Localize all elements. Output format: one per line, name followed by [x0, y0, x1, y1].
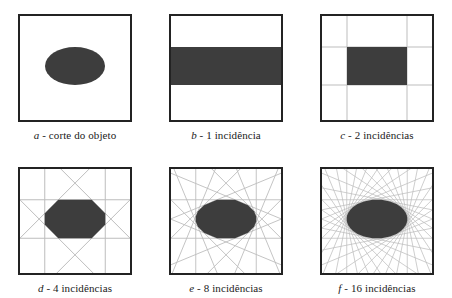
reconstruction-hexagon	[45, 200, 106, 239]
panel-d-frame	[18, 167, 132, 275]
panel-e-frame	[169, 167, 283, 275]
reconstruction-rectangle	[347, 47, 407, 85]
projection-band-horizontal	[171, 47, 281, 85]
panel-d-caption: d - 4 incidências	[0, 282, 150, 294]
panel-f-caption: f - 16 incidências	[302, 282, 452, 294]
object-ellipse	[45, 47, 105, 85]
reconstruction-polygon	[196, 200, 257, 239]
panel-e-description: 8 incidências	[204, 282, 263, 294]
reconstruction-ellipse	[347, 200, 408, 239]
panel-a-caption: a - corte do objeto	[0, 129, 150, 141]
panel-a-separator: -	[39, 129, 48, 141]
panel-f: f - 16 incidências	[302, 167, 452, 294]
panel-e-caption: e - 8 incidências	[151, 282, 301, 294]
panel-c-frame	[320, 14, 434, 122]
panel-e-plot	[171, 169, 281, 273]
panel-c-description: 2 incidências	[355, 129, 414, 141]
panel-a-description: corte do objeto	[49, 129, 116, 141]
panel-b: b - 1 incidência	[151, 14, 301, 141]
panel-e: e - 8 incidências	[151, 167, 301, 294]
panel-d: d - 4 incidências	[0, 167, 150, 294]
panel-a-plot	[20, 16, 130, 120]
panel-f-description: 16 incidências	[351, 282, 416, 294]
panel-f-plot	[322, 169, 432, 273]
tomography-figure: a - corte do objeto b - 1 incidência c -…	[0, 0, 452, 298]
panel-c-caption: c - 2 incidências	[302, 129, 452, 141]
panel-d-description: 4 incidências	[53, 282, 112, 294]
panel-c: c - 2 incidências	[302, 14, 452, 141]
panel-a: a - corte do objeto	[0, 14, 150, 141]
panel-d-plot	[20, 169, 130, 273]
panel-b-plot	[171, 16, 281, 120]
panel-b-caption: b - 1 incidência	[151, 129, 301, 141]
panel-c-separator: -	[345, 129, 354, 141]
panel-b-separator: -	[197, 129, 206, 141]
panel-f-separator: -	[342, 282, 351, 294]
panel-a-frame	[18, 14, 132, 122]
panel-d-separator: -	[44, 282, 53, 294]
panel-b-frame	[169, 14, 283, 122]
panel-c-plot	[322, 16, 432, 120]
panel-e-separator: -	[194, 282, 203, 294]
panel-b-description: 1 incidência	[206, 129, 261, 141]
panel-f-frame	[320, 167, 434, 275]
